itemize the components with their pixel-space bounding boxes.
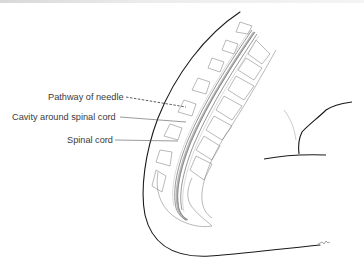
knee-contour xyxy=(299,102,352,154)
label-spinal-cord: Spinal cord xyxy=(67,135,113,145)
knee-faint-line xyxy=(284,110,296,140)
spinal-cord xyxy=(173,30,259,220)
spine-illustration: Pathway of needle Cavity around spinal c… xyxy=(0,0,364,270)
vertebral-bodies xyxy=(190,40,270,180)
vertebrae-anterior-edge xyxy=(202,50,276,218)
cavity-leader-line xyxy=(120,117,186,122)
needle-pathway-line xyxy=(126,97,186,107)
label-pathway-of-needle: Pathway of needle xyxy=(48,92,124,102)
leg-contour xyxy=(264,155,326,159)
cord-leader-line xyxy=(115,140,178,141)
back-outline xyxy=(143,12,320,256)
artist-signature xyxy=(318,241,330,244)
label-cavity-around-spinal-cord: Cavity around spinal cord xyxy=(12,112,116,122)
